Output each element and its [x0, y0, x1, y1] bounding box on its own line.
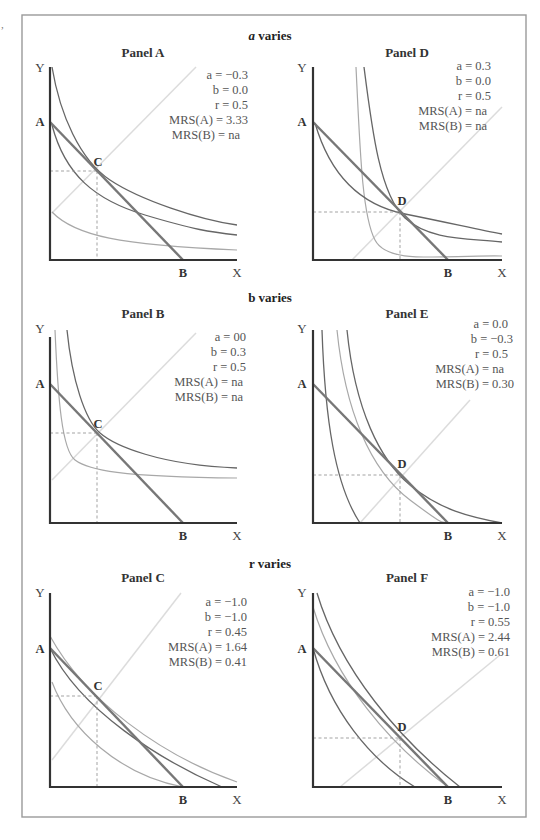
y-axis-label: Y [35, 585, 45, 600]
budget-line [313, 122, 448, 260]
svg-text:MRS(A) = na: MRS(A) = na [174, 375, 243, 389]
diagonal-45-line [52, 593, 181, 760]
svg-text:MRS(B) = 0.61: MRS(B) = 0.61 [432, 645, 510, 659]
stray-mark: , [1, 18, 4, 30]
budget-line [313, 648, 448, 787]
svg-text:MRS(A) = na: MRS(A) = na [418, 104, 487, 118]
indifference-curve-through-a [315, 123, 502, 234]
panel-f: Panel F Y X A B D a = −1.0 b = −1.0 r = … [297, 570, 510, 807]
svg-text:b = −1.0: b = −1.0 [468, 600, 510, 614]
svg-text:a = 0.0: a = 0.0 [474, 317, 508, 331]
svg-text:a = −1.0: a = −1.0 [205, 595, 247, 609]
parameter-list: a = 00 b = 0.3 r = 0.5 MRS(A) = na MRS(B… [174, 330, 246, 404]
svg-text:r = 0.5: r = 0.5 [213, 360, 246, 374]
svg-text:r = 0.5: r = 0.5 [475, 347, 508, 361]
intercept-y-label: A [297, 115, 306, 129]
x-axis-label: X [497, 265, 507, 280]
svg-text:r = 0.55: r = 0.55 [471, 615, 510, 629]
svg-text:b = 0.0: b = 0.0 [213, 83, 248, 97]
panel-e: Panel E Y X A B D a = 0.0 b = −0.3 r = 0… [297, 306, 514, 543]
svg-text:a = −1.0: a = −1.0 [468, 585, 510, 599]
intercept-x-label: B [444, 266, 452, 280]
svg-text:MRS(B) = na: MRS(B) = na [175, 390, 244, 404]
parameter-list: a = 0.3 b = 0.0 r = 0.5 MRS(A) = na MRS(… [418, 59, 491, 133]
y-axis-label: Y [35, 60, 45, 75]
panel-title: Panel F [386, 570, 428, 585]
svg-text:r = 0.5: r = 0.5 [215, 98, 248, 112]
svg-text:b = −1.0: b = −1.0 [205, 610, 247, 624]
y-axis-label: Y [35, 321, 45, 336]
svg-text:a = −0.3: a = −0.3 [206, 68, 248, 82]
x-axis-label: X [497, 792, 507, 807]
tangent-point-label: C [93, 417, 102, 431]
indifference-curve-high [52, 67, 237, 225]
intercept-y-label: A [297, 377, 306, 391]
svg-text:r = 0.5: r = 0.5 [458, 89, 491, 103]
intercept-y-label: A [35, 115, 44, 129]
intercept-y-label: A [297, 642, 306, 656]
intercept-x-label: B [179, 793, 187, 807]
y-axis-label: Y [297, 321, 307, 336]
tangent-point-label: D [397, 457, 406, 471]
panel-title: Panel B [122, 306, 165, 321]
section-title-b-varies: b varies [248, 290, 292, 305]
indifference-curve-figure: , a varies b varies r varies Panel A Y X… [0, 0, 540, 840]
diagonal-45-line [360, 400, 470, 523]
svg-text:MRS(A) = 1.64: MRS(A) = 1.64 [168, 640, 248, 654]
y-axis-label: Y [297, 60, 307, 75]
y-axis-label: Y [297, 585, 307, 600]
svg-text:MRS(A) = 2.44: MRS(A) = 2.44 [431, 630, 511, 644]
intercept-x-label: B [179, 266, 187, 280]
parameter-list: a = 0.0 b = −0.3 r = 0.5 MRS(A) = na MRS… [435, 317, 514, 391]
intercept-y-label: A [35, 642, 44, 656]
svg-text:MRS(A) = 3.33: MRS(A) = 3.33 [169, 113, 248, 127]
tangent-point-label: D [397, 720, 406, 734]
intercept-x-label: B [444, 793, 452, 807]
parameter-list: a = −1.0 b = −1.0 r = 0.55 MRS(A) = 2.44… [431, 585, 511, 659]
diagonal-45-line [340, 655, 500, 787]
tangent-point-label: C [93, 155, 102, 169]
svg-text:MRS(B) = 0.30: MRS(B) = 0.30 [436, 377, 514, 391]
panel-title: Panel D [385, 45, 429, 60]
svg-text:r = 0.45: r = 0.45 [208, 625, 247, 639]
panel-c: Panel C Y X A B C a = −1.0 b = −1.0 r = … [35, 570, 247, 807]
svg-text:a = 00: a = 00 [215, 330, 246, 344]
panel-a: Panel A Y X A B C a = −0.3 b = 0.0 r = 0… [35, 45, 248, 280]
indifference-curve-outer [317, 593, 460, 787]
section-title-r-varies: r varies [249, 556, 291, 571]
svg-text:b = −0.3: b = −0.3 [471, 332, 513, 346]
panel-b: Panel B Y X A B C a = 00 b = 0.3 r = 0.5… [35, 306, 246, 543]
budget-line [313, 384, 448, 523]
panel-title: Panel E [386, 306, 429, 321]
panel-d: Panel D Y X A B D a = 0.3 b = 0.0 r = 0.… [297, 45, 507, 280]
parameter-list: a = −0.3 b = 0.0 r = 0.5 MRS(A) = 3.33 M… [169, 68, 248, 142]
parameter-list: a = −1.0 b = −1.0 r = 0.45 MRS(A) = 1.64… [168, 595, 248, 669]
x-axis-label: X [232, 265, 242, 280]
panel-title: Panel C [121, 570, 165, 585]
x-axis-label: X [232, 792, 242, 807]
tangent-point-label: C [93, 679, 102, 693]
svg-text:MRS(B) = na: MRS(B) = na [419, 119, 488, 133]
svg-text:MRS(B) = 0.41: MRS(B) = 0.41 [169, 655, 247, 669]
svg-text:MRS(A) = na: MRS(A) = na [435, 362, 504, 376]
svg-text:MRS(B) = na: MRS(B) = na [172, 128, 241, 142]
tangent-point-label: D [397, 194, 406, 208]
x-axis-label: X [497, 528, 507, 543]
budget-line [50, 648, 183, 787]
panel-title: Panel A [122, 45, 166, 60]
intercept-x-label: B [179, 529, 187, 543]
svg-text:b = 0.3: b = 0.3 [211, 345, 246, 359]
section-title-a-varies: a varies [249, 28, 292, 43]
intercept-x-label: B [444, 529, 452, 543]
intercept-y-label: A [35, 377, 44, 391]
svg-text:b = 0.0: b = 0.0 [456, 74, 491, 88]
svg-text:a = 0.3: a = 0.3 [457, 59, 491, 73]
x-axis-label: X [232, 528, 242, 543]
